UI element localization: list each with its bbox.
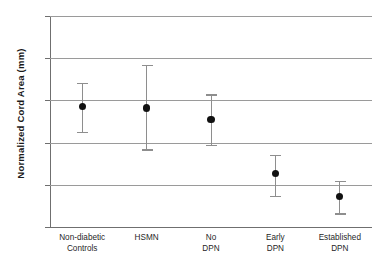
y-tick-60: [45, 185, 50, 186]
y-tick-55: [45, 227, 50, 228]
error-bar-cap-upper: [206, 94, 217, 95]
plot-area: [50, 16, 372, 227]
data-point-marker: [336, 193, 343, 200]
data-point-marker: [272, 170, 279, 177]
x-axis-label-5: EstablishedDPN: [294, 233, 381, 254]
gridline-55: [50, 227, 372, 228]
x-axis-label-line: DPN: [294, 244, 381, 255]
error-bar-cap-lower: [142, 149, 153, 150]
error-bar-cap-upper: [270, 155, 281, 156]
gridline-75: [50, 58, 372, 59]
error-bar-cap-lower: [335, 213, 346, 214]
data-point-marker: [79, 103, 86, 110]
x-axis-label-line: Controls: [36, 244, 128, 255]
gridline-80: [50, 16, 372, 17]
y-axis-title: Normalized Cord Area (mm): [15, 4, 26, 224]
y-tick-75: [45, 58, 50, 59]
data-point-marker: [143, 104, 150, 111]
x-axis-label-line: Established: [294, 233, 381, 244]
error-bar-cap-lower: [77, 132, 88, 133]
data-point-marker: [207, 116, 214, 123]
error-bar-cap-upper: [142, 65, 153, 66]
y-tick-70: [45, 100, 50, 101]
y-tick-80: [45, 16, 50, 17]
gridline-60: [50, 185, 372, 186]
error-bar-cap-upper: [77, 83, 88, 84]
error-bar-cap-lower: [270, 196, 281, 197]
error-bar-cap-upper: [335, 181, 346, 182]
chart-container: Normalized Cord Area (mm) 807570656055 N…: [0, 0, 381, 267]
error-bar-cap-lower: [206, 145, 217, 146]
y-tick-65: [45, 143, 50, 144]
